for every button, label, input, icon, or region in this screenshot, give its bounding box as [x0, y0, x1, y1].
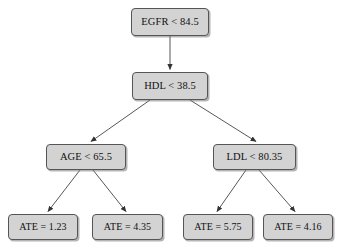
tree-leaf-2-label: ATE = 4.35 [104, 222, 151, 232]
edge-ldl-to-leaf4 [259, 170, 295, 212]
decision-tree-diagram: EGFR < 84.5 HDL < 38.5 AGE < 65.5 LDL < … [0, 0, 337, 251]
edge-age-to-leaf2 [93, 170, 126, 212]
tree-node-root[interactable]: EGFR < 84.5 [131, 8, 209, 36]
tree-node-ldl[interactable]: LDL < 80.35 [213, 144, 296, 170]
tree-leaf-1-label: ATE = 1.23 [19, 222, 66, 232]
tree-node-age[interactable]: AGE < 65.5 [46, 144, 126, 170]
edge-age-to-leaf1 [48, 170, 80, 212]
tree-node-ldl-label: LDL < 80.35 [227, 152, 283, 163]
tree-leaf-1[interactable]: ATE = 1.23 [8, 214, 78, 240]
tree-leaf-2[interactable]: ATE = 4.35 [92, 214, 163, 240]
tree-leaf-3[interactable]: ATE = 5.75 [183, 214, 253, 240]
tree-node-hdl[interactable]: HDL < 38.5 [132, 72, 208, 100]
tree-node-hdl-label: HDL < 38.5 [144, 81, 196, 92]
tree-leaf-4[interactable]: ATE = 4.16 [263, 214, 333, 240]
tree-leaf-4-label: ATE = 4.16 [274, 222, 321, 232]
edge-ldl-to-leaf3 [217, 170, 246, 212]
tree-node-root-label: EGFR < 84.5 [141, 17, 199, 28]
tree-leaf-3-label: ATE = 5.75 [194, 222, 241, 232]
tree-node-age-label: AGE < 65.5 [60, 152, 112, 163]
edge-hdl-to-age [91, 100, 150, 142]
edge-hdl-to-ldl [190, 100, 256, 142]
